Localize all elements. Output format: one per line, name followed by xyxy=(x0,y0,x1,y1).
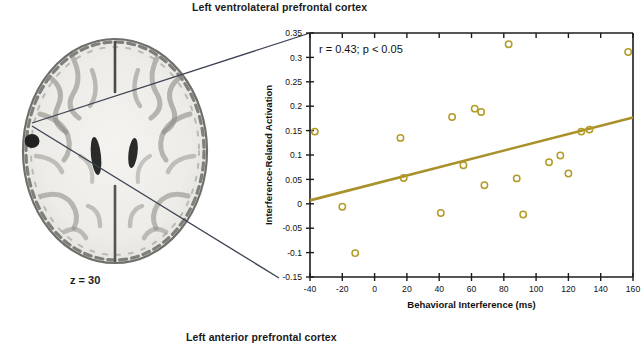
data-point xyxy=(478,109,484,115)
x-tick-label: 140 xyxy=(594,284,609,294)
brain-panel: z = 30 xyxy=(8,18,248,288)
x-tick-label: 60 xyxy=(467,284,477,294)
x-tick-label: 40 xyxy=(434,284,444,294)
data-point xyxy=(460,162,466,168)
data-point xyxy=(312,128,318,134)
x-tick-label: -40 xyxy=(304,284,317,294)
data-point xyxy=(449,114,455,120)
data-point xyxy=(625,49,631,55)
x-axis-title: Behavioral Interference (ms) xyxy=(407,299,535,310)
scatter-plot: -0.15-0.1-0.0500.050.10.150.20.250.30.35… xyxy=(258,24,643,324)
data-point xyxy=(438,210,444,216)
activation-blob-left-vlpfc xyxy=(25,134,40,148)
y-tick-label: 0.1 xyxy=(290,150,302,160)
figure-title-bottom: Left anterior prefrontal cortex xyxy=(186,331,337,343)
figure-title-top: Left ventrolateral prefrontal cortex xyxy=(192,1,367,13)
data-point xyxy=(352,250,358,256)
y-tick-label: -0.15 xyxy=(282,272,302,282)
axial-brain-slice xyxy=(18,36,213,266)
y-tick-label: -0.1 xyxy=(287,248,302,258)
data-point xyxy=(565,170,571,176)
y-tick-label: 0.15 xyxy=(285,126,302,136)
data-point xyxy=(520,211,526,217)
data-point xyxy=(505,41,511,47)
data-point xyxy=(472,105,478,111)
x-tick-label: 160 xyxy=(626,284,641,294)
data-point xyxy=(546,159,552,165)
x-tick-label: 120 xyxy=(561,284,576,294)
y-tick-label: 0.2 xyxy=(290,101,302,111)
x-tick-label: 80 xyxy=(499,284,509,294)
data-point xyxy=(481,182,487,188)
figure-root: Left ventrolateral prefrontal cortex xyxy=(0,0,643,349)
data-point xyxy=(557,152,563,158)
y-tick-label: 0.3 xyxy=(290,53,302,63)
x-tick-label: 20 xyxy=(402,284,412,294)
y-tick-label: 0.05 xyxy=(285,175,302,185)
x-tick-label: 100 xyxy=(529,284,544,294)
y-tick-label: -0.05 xyxy=(282,223,302,233)
data-point xyxy=(514,175,520,181)
x-tick-label: -20 xyxy=(336,284,349,294)
y-tick-label: 0.25 xyxy=(285,77,302,87)
correlation-annotation: r = 0.43; p < 0.05 xyxy=(319,43,403,55)
data-point xyxy=(339,204,345,210)
scatter-chart-panel: -0.15-0.1-0.0500.050.10.150.20.250.30.35… xyxy=(258,24,643,324)
slice-label: z = 30 xyxy=(70,274,100,286)
y-tick-label: 0 xyxy=(297,199,302,209)
y-tick-label: 0.35 xyxy=(285,28,302,38)
data-point xyxy=(397,135,403,141)
x-tick-label: 0 xyxy=(372,284,377,294)
y-axis-title: Interference-Related Activation xyxy=(263,85,274,225)
